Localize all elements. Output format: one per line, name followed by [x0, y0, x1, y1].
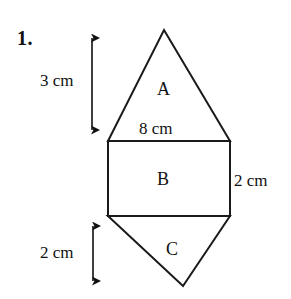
dimension-label-top-height: 3 cm	[40, 72, 74, 89]
dimension-label-bottom-height: 2 cm	[40, 244, 74, 261]
dimension-label-base-width: 8 cm	[139, 120, 173, 137]
region-label-a: A	[157, 80, 170, 98]
problem-number: 1.	[17, 28, 33, 48]
dimension-label-rectangle-height: 2 cm	[234, 172, 268, 189]
figure-page: 1. 3 cm 8 cm 2 cm 2 cm A B C	[0, 0, 291, 299]
region-label-c: C	[166, 240, 178, 258]
region-label-b: B	[157, 170, 169, 188]
